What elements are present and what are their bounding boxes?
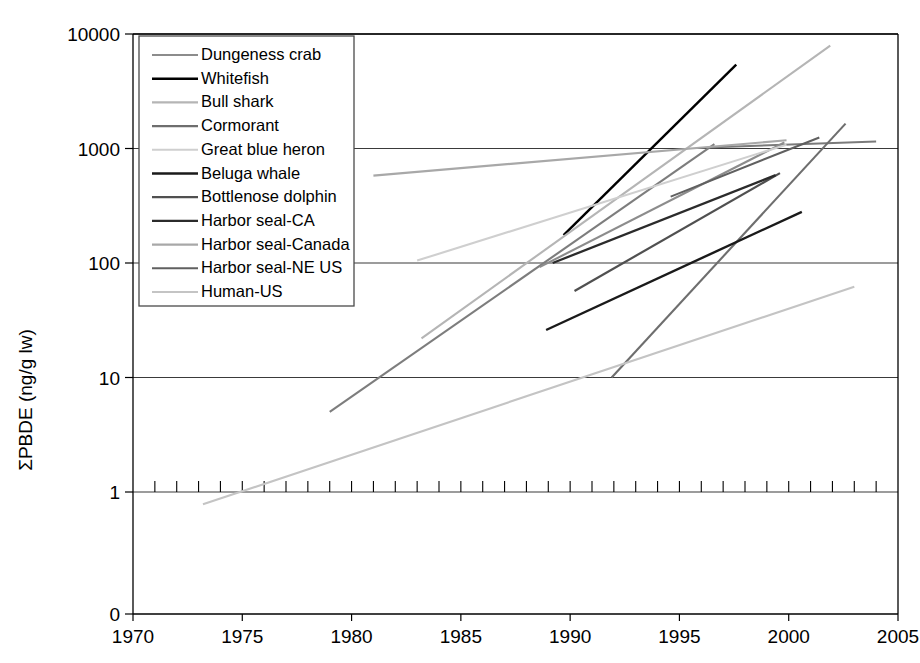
series-line-harbor-seal-canada: [373, 140, 786, 175]
x-tick-label-1995: 1995: [658, 626, 700, 647]
y-tick-label-1000: 1000: [78, 139, 120, 160]
x-tick-label-2000: 2000: [768, 626, 810, 647]
legend-item-bottlenose-dolphin-label: Bottlenose dolphin: [201, 187, 337, 205]
y-tick-labels: 0110100100010000: [67, 24, 120, 625]
legend-item-harbor-seal-canada-label: Harbor seal-Canada: [201, 235, 350, 253]
pbde-trend-chart: 0110100100010000 19701975198019851990199…: [0, 0, 920, 663]
y-tick-label-10000: 10000: [67, 24, 120, 45]
y-tick-label-10: 10: [99, 368, 120, 389]
x-tick-label-1975: 1975: [221, 626, 263, 647]
x-tick-label-1970: 1970: [112, 626, 154, 647]
series-line-harbor-seal-ca: [553, 175, 776, 263]
x-tick-label-1985: 1985: [440, 626, 482, 647]
x-tick-label-2005: 2005: [877, 626, 919, 647]
y-tick-label-1: 1: [109, 482, 120, 503]
y-axis-title: ΣPBDE (ng/g lw): [15, 329, 36, 471]
legend-item-harbor-seal-ca-label: Harbor seal-CA: [201, 211, 315, 229]
legend-item-human-us-label: Human-US: [201, 282, 283, 300]
y-tick-label-0: 0: [109, 604, 120, 625]
y-axis-title-text: ΣPBDE (ng/g lw): [15, 329, 36, 471]
legend-item-great-blue-heron-label: Great blue heron: [201, 140, 325, 158]
x-tick-label-1990: 1990: [549, 626, 591, 647]
y-tick-label-100: 100: [88, 253, 120, 274]
legend-item-cormorant-label: Cormorant: [201, 116, 279, 134]
series-line-bottlenose-dolphin: [575, 173, 780, 291]
legend-item-beluga-whale-label: Beluga whale: [201, 164, 300, 182]
series-line-whitefish: [564, 65, 737, 236]
series-line-dungeness-crab: [540, 142, 785, 267]
legend-item-dungeness-crab-label: Dungeness crab: [201, 45, 321, 63]
x-tick-labels: 19701975198019851990199520002005: [112, 626, 919, 647]
x-tick-label-1980: 1980: [330, 626, 372, 647]
chart-page: 0110100100010000 19701975198019851990199…: [0, 0, 920, 663]
chart-legend: Dungeness crabWhitefishBull sharkCormora…: [139, 36, 354, 306]
legend-item-bull-shark-label: Bull shark: [201, 92, 274, 110]
series-line-human-us: [203, 287, 854, 505]
series-line-beluga-whale: [546, 212, 802, 330]
legend-item-whitefish-label: Whitefish: [201, 69, 269, 87]
legend-item-harbor-seal-ne-us-label: Harbor seal-NE US: [201, 258, 342, 276]
